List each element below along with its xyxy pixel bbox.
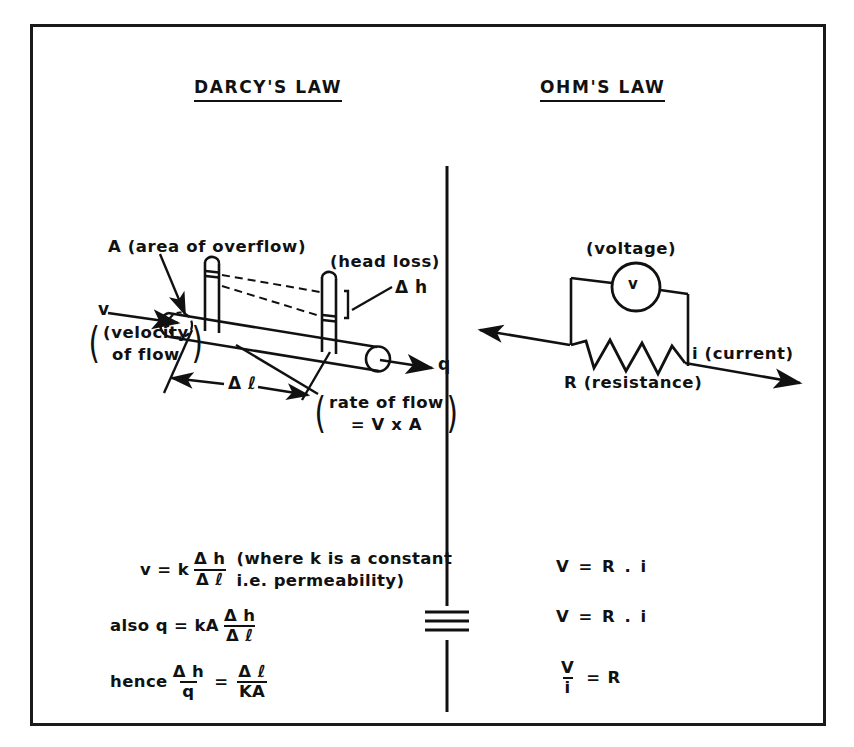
label-resistance: R (resistance) — [564, 374, 702, 393]
denominator: Δ ℓ — [194, 569, 226, 588]
page-title-ohm: OHM'S LAW — [540, 78, 665, 102]
numerator: Δ h — [222, 607, 257, 624]
head-loss-bracket — [344, 291, 348, 318]
velocity-line-2: of flow — [112, 345, 180, 364]
label-q: q — [438, 355, 451, 375]
numerator: Δ h — [192, 550, 227, 567]
equation-darcy-2-fraction: Δ h Δ ℓ — [222, 607, 257, 645]
equation-darcy-3: hence Δ h q = Δ ℓ KA — [110, 664, 271, 702]
rate-line-2: = V x A — [351, 415, 422, 434]
equation-darcy-3-lhs: Δ h q — [171, 663, 206, 701]
equation-darcy-3-operator: = — [214, 673, 228, 692]
denominator: q — [180, 681, 196, 700]
equivalence-symbol-icon — [425, 612, 469, 630]
equation-darcy-1-note-2: i.e. permeability) — [237, 571, 405, 590]
equation-darcy-3-prefix: hence — [110, 673, 168, 692]
numerator: V — [559, 659, 576, 676]
equation-darcy-2: also q = kA Δ h Δ ℓ — [110, 608, 260, 646]
voltmeter-label: v — [628, 276, 638, 293]
label-head-loss: (head loss) — [330, 253, 440, 272]
equation-ohm-3: V i = R — [556, 660, 621, 698]
label-delta-h: Δ h — [395, 278, 428, 298]
equation-darcy-3-rhs: Δ ℓ KA — [236, 663, 268, 701]
paren-close: ) — [192, 327, 204, 361]
equation-darcy-1-note-1: (where k is a constant — [237, 549, 453, 568]
numerator: Δ ℓ — [236, 663, 268, 680]
label-current: i (current) — [692, 345, 794, 364]
hydraulic-grade-lines — [222, 275, 320, 316]
equation-ohm-3-fraction: V i — [559, 659, 576, 697]
paren-open: ( — [315, 397, 327, 431]
denominator: KA — [237, 681, 267, 700]
paren-close: ) — [447, 397, 459, 431]
page-title-darcy: DARCY'S LAW — [194, 78, 342, 102]
velocity-line-1: (velocity — [103, 323, 189, 342]
label-area-of-overflow: A (area of overflow) — [108, 238, 306, 257]
label-velocity-of-flow: ( (velocity of flow ) — [86, 322, 206, 367]
equation-ohm-1: V = R . i — [556, 558, 648, 577]
numerator: Δ h — [171, 663, 206, 680]
equation-ohm-3-rhs: R — [607, 669, 620, 688]
circuit-assembly-icon — [480, 263, 800, 383]
equation-darcy-2-prefix: also q = kA — [110, 617, 219, 636]
figure-canvas: DARCY'S LAW OHM'S LAW A (area of overflo… — [0, 0, 854, 747]
equation-darcy-1-prefix: v = k — [140, 561, 189, 580]
label-rate-of-flow: ( rate of flow = V x A ) — [312, 392, 461, 437]
equation-darcy-1-fraction: Δ h Δ ℓ — [192, 550, 227, 588]
equation-darcy-1: v = k Δ h Δ ℓ (where k is a constant i.e… — [140, 548, 452, 593]
rate-line-1: rate of flow — [329, 393, 444, 412]
resistor-icon — [571, 340, 685, 374]
denominator: i — [563, 677, 573, 696]
label-velocity-symbol: v — [98, 300, 110, 320]
equation-ohm-3-operator: = — [586, 669, 600, 688]
label-voltage: (voltage) — [586, 240, 676, 259]
equation-ohm-2: V = R . i — [556, 608, 648, 627]
denominator: Δ ℓ — [224, 625, 256, 644]
manometer-tube-downstream — [322, 272, 336, 354]
paren-open: ( — [89, 327, 101, 361]
label-delta-l: Δ ℓ — [228, 374, 257, 394]
